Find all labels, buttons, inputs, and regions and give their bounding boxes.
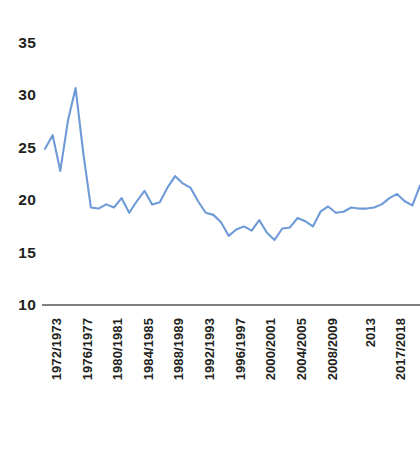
y-axis-tick-label: 15 [18,245,36,261]
y-axis-tick-label: 25 [18,140,36,156]
plot-area [42,0,420,310]
y-axis-tick-label: 35 [18,35,36,51]
x-axis-line [42,304,420,306]
x-axis-tick-label: 2000/2001 [264,318,277,380]
line-chart: 353025201510 1972/19731976/19771980/1981… [0,0,420,474]
x-axis-tick-label: 2004/2005 [295,318,308,380]
x-axis-tick-label: 1996/1997 [234,318,247,380]
x-axis-tick-label: 1976/1977 [81,318,94,380]
y-axis-tick-label: 20 [18,192,36,208]
data-series-line [45,88,420,240]
y-axis-tick-label: 30 [18,88,36,104]
x-axis-tick-label: 1992/1993 [203,318,216,380]
x-axis-tick-label: 1980/1981 [111,318,124,380]
x-axis-tick-label: 2013 [364,318,377,347]
x-axis-tick-label: 2008/2009 [326,318,339,380]
y-axis: 353025201510 [0,0,40,320]
x-axis-tick-label: 1984/1985 [142,318,155,380]
x-axis-tick-label: 1988/1989 [172,318,185,380]
x-axis-tick-label: 1972/1973 [50,318,63,380]
data-line-svg [42,0,420,310]
x-axis: 1972/19731976/19771980/19811984/19851988… [0,310,420,474]
x-axis-tick-label: 2017/2018 [394,318,407,380]
